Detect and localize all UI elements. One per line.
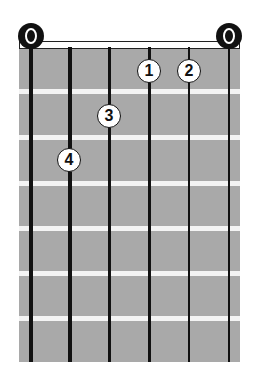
finger-1-marker: 1 <box>137 59 161 83</box>
finger-label: 4 <box>65 151 74 169</box>
string-4 <box>108 47 111 362</box>
fret-5 <box>19 271 240 276</box>
string-6 <box>29 47 33 362</box>
nut <box>19 41 240 49</box>
string-3 <box>148 47 151 362</box>
finger-4-marker: 4 <box>57 148 81 172</box>
finger-label: 1 <box>145 62 154 80</box>
open-string-1-icon <box>216 23 242 49</box>
fret-2 <box>19 135 240 140</box>
finger-2-marker: 2 <box>177 59 201 83</box>
finger-label: 2 <box>185 62 194 80</box>
open-string-6-icon <box>18 23 44 49</box>
finger-3-marker: 3 <box>97 104 121 128</box>
fret-3 <box>19 181 240 186</box>
fretboard <box>19 48 240 362</box>
string-2 <box>188 47 190 362</box>
string-1 <box>228 47 230 362</box>
string-5 <box>68 47 72 362</box>
finger-label: 3 <box>105 107 114 125</box>
fret-6 <box>19 316 240 321</box>
fret-1 <box>19 89 240 94</box>
fret-4 <box>19 226 240 231</box>
